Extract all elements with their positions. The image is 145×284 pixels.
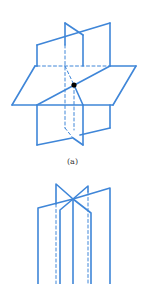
three-planes-line-diagram xyxy=(0,180,145,284)
plane-3-right-edge xyxy=(113,66,136,105)
figure-b-three-planes-line xyxy=(0,180,145,284)
plane-1-bottom-edge-left xyxy=(37,138,72,145)
three-planes-point-diagram xyxy=(0,0,145,155)
intersection-line-2-3 xyxy=(74,85,83,105)
hidden-intersection xyxy=(65,66,74,85)
plane-front xyxy=(60,199,91,284)
hidden-plane-2-bottom xyxy=(65,128,73,138)
figure-a-three-planes-point xyxy=(0,0,145,155)
plane-1-top-edge xyxy=(37,23,110,45)
plane-3-left-edge xyxy=(12,66,35,105)
plane-1-bottom-edge-right xyxy=(80,128,110,135)
figure-a-caption: (a) xyxy=(0,157,145,166)
intersection-point xyxy=(71,82,76,87)
plane-2-bottom-edge xyxy=(73,138,83,145)
